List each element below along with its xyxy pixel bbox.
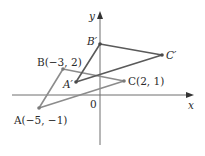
coordinate-diagram: y x 0 A(−5, −1) B(−3, 2) C(2, 1) A′ B′ C… [0,0,205,156]
label-c: C(2, 1) [128,75,164,87]
origin-label: 0 [90,98,97,110]
vertex-c [122,79,126,83]
vertex-b-prime [98,42,102,46]
x-axis [12,92,194,98]
label-b-prime: B′ [86,35,98,47]
label-a-prime: A′ [62,78,74,90]
y-axis [97,11,103,145]
vertex-a [37,106,41,110]
y-axis-arrow-icon [97,11,103,19]
y-axis-label: y [88,10,96,22]
x-axis-arrow-icon [186,92,194,98]
vertex-a-prime [74,80,78,84]
label-b: B(−3, 2) [37,56,82,68]
x-axis-label: x [188,99,194,111]
label-a: A(−5, −1) [13,114,67,126]
vertex-c-prime [160,53,164,57]
label-c-prime: C′ [166,49,177,61]
